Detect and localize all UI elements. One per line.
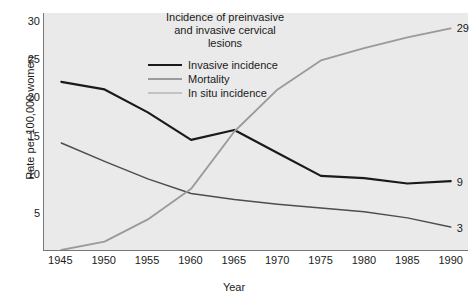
chart-title: Incidence of preinvasiveand invasive cer…	[120, 11, 330, 50]
legend-line-swatch-icon	[148, 73, 182, 85]
x-tick-1970: 1970	[265, 255, 289, 266]
legend-label: Invasive incidence	[188, 59, 278, 71]
end-label-mortality: 3	[457, 222, 463, 233]
series-line-mortality	[61, 143, 450, 227]
y-tick-20: 20	[14, 92, 40, 103]
chart-title-line-1: and invasive cervical	[120, 24, 330, 37]
x-tick-1950: 1950	[91, 255, 115, 266]
x-axis-tick-labels: 1945195019551960196519701975198019851990	[43, 255, 468, 269]
x-tick-1945: 1945	[48, 255, 72, 266]
chart-title-line-2: lesions	[120, 37, 330, 50]
x-tick-1965: 1965	[222, 255, 246, 266]
x-axis-label: Year	[0, 281, 468, 293]
legend-item-mortality: Mortality	[148, 72, 348, 86]
legend-line-swatch-icon	[148, 87, 182, 99]
y-tick-5: 5	[14, 208, 40, 219]
x-tick-1985: 1985	[395, 255, 419, 266]
end-label-invasive-incidence: 9	[457, 176, 463, 187]
x-tick-1955: 1955	[135, 255, 159, 266]
end-label-in-situ-incidence: 29	[457, 23, 469, 34]
y-tick-15: 15	[14, 131, 40, 142]
legend-line-swatch-icon	[148, 59, 182, 71]
legend-item-invasive-incidence: Invasive incidence	[148, 58, 348, 72]
x-tick-1980: 1980	[352, 255, 376, 266]
legend-item-in-situ-incidence: In situ incidence	[148, 86, 348, 100]
chart-title-line-0: Incidence of preinvasive	[120, 11, 330, 24]
legend-label: Mortality	[188, 73, 230, 85]
x-tick-1990: 1990	[438, 255, 462, 266]
legend-label: In situ incidence	[188, 87, 267, 99]
y-axis-tick-labels: 51015202530	[10, 0, 40, 302]
y-tick-10: 10	[14, 169, 40, 180]
x-tick-1960: 1960	[178, 255, 202, 266]
chart-legend: Invasive incidenceMortalityIn situ incid…	[148, 58, 348, 100]
y-tick-25: 25	[14, 54, 40, 65]
x-tick-1975: 1975	[308, 255, 332, 266]
y-tick-30: 30	[14, 16, 40, 27]
